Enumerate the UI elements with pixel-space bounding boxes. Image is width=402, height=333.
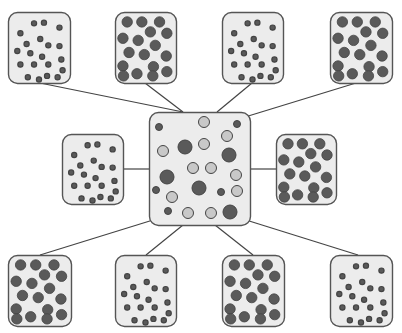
large-particle xyxy=(363,71,373,81)
large-particle xyxy=(225,276,235,286)
large-particle xyxy=(348,35,358,45)
small-particle xyxy=(78,163,83,168)
large-particle xyxy=(308,192,318,202)
large-particle xyxy=(56,309,66,319)
small-particle xyxy=(38,36,43,41)
large-particle xyxy=(377,51,387,61)
large-particle xyxy=(27,278,37,288)
small-particle xyxy=(268,75,273,80)
large-particles-bottom-3 xyxy=(223,256,285,327)
dark-particle xyxy=(192,181,206,195)
light-particle xyxy=(206,163,217,174)
large-particle xyxy=(333,33,343,43)
large-particle xyxy=(361,27,371,37)
small-particle xyxy=(232,62,237,67)
large-particle xyxy=(118,61,128,71)
dark-particle xyxy=(178,140,192,154)
large-particles-mid-right xyxy=(277,135,337,205)
small-particle xyxy=(347,318,352,323)
large-particle xyxy=(255,314,265,324)
large-particle xyxy=(306,148,316,158)
small-particle xyxy=(259,62,264,67)
small-particle xyxy=(99,183,104,188)
large-particle xyxy=(133,35,143,45)
small-particle xyxy=(110,165,115,170)
large-particle xyxy=(321,172,331,182)
small-particle xyxy=(85,143,90,148)
large-particle xyxy=(364,61,374,71)
small-particle xyxy=(353,264,358,269)
mixture-container xyxy=(150,113,251,226)
dark-particle xyxy=(153,187,160,194)
small-particle xyxy=(163,268,168,273)
large-particle xyxy=(333,61,343,71)
small-particle xyxy=(36,77,41,82)
small-particle xyxy=(272,57,277,62)
large-particle xyxy=(122,17,132,27)
small-particle xyxy=(165,300,170,305)
large-particle xyxy=(118,71,128,81)
light-particle xyxy=(232,186,243,197)
large-particle xyxy=(310,162,320,172)
small-particle xyxy=(40,54,45,59)
connection-line xyxy=(215,225,253,255)
large-particle xyxy=(269,294,279,304)
large-particle xyxy=(56,294,66,304)
small-particle xyxy=(79,196,84,201)
small-particle xyxy=(152,286,157,291)
small-particle xyxy=(251,36,256,41)
dark-particle xyxy=(156,124,163,131)
connection-line xyxy=(217,83,252,112)
large-particle xyxy=(231,290,241,300)
large-particle xyxy=(337,17,347,27)
dark-particle xyxy=(222,148,236,162)
small-particle xyxy=(25,75,30,80)
small-particle xyxy=(98,194,103,199)
small-particle xyxy=(81,172,86,177)
small-particle xyxy=(57,43,62,48)
small-particle xyxy=(270,25,275,30)
small-particle xyxy=(59,57,64,62)
large-particle xyxy=(355,49,365,59)
small-particle xyxy=(41,20,46,25)
large-particle xyxy=(339,47,349,57)
large-particle xyxy=(15,260,25,270)
large-particle xyxy=(370,17,380,27)
large-particle xyxy=(366,40,376,50)
large-particle xyxy=(378,28,388,38)
small-particle xyxy=(258,73,263,78)
small-particle xyxy=(31,62,36,67)
small-particle xyxy=(57,25,62,30)
small-particle xyxy=(46,43,51,48)
small-particle xyxy=(366,316,371,321)
light-particle xyxy=(199,117,210,128)
small-particle xyxy=(31,21,36,26)
small-particle xyxy=(146,297,151,302)
large-particle xyxy=(333,71,343,81)
small-particles-mid-left xyxy=(63,135,124,205)
large-particle xyxy=(322,188,332,198)
small-particle xyxy=(122,291,127,296)
large-particle xyxy=(44,283,54,293)
connection-line xyxy=(40,220,153,255)
small-particle xyxy=(340,305,345,310)
small-particle xyxy=(270,43,275,48)
dark-particle xyxy=(218,189,225,196)
light-particle xyxy=(206,208,217,219)
small-particle xyxy=(110,147,115,152)
large-particle xyxy=(258,283,268,293)
small-particle xyxy=(44,73,49,78)
large-particle xyxy=(118,33,128,43)
large-particle xyxy=(124,47,134,57)
small-particle xyxy=(18,31,23,36)
large-particle xyxy=(39,270,49,280)
small-particle xyxy=(245,21,250,26)
small-particle xyxy=(253,54,258,59)
large-particle xyxy=(137,17,147,27)
large-particles-top-4 xyxy=(331,13,393,84)
light-particle xyxy=(222,131,233,142)
large-particle xyxy=(148,61,158,71)
small-particle xyxy=(377,318,382,323)
small-particle xyxy=(346,284,351,289)
connection-line xyxy=(246,220,358,255)
